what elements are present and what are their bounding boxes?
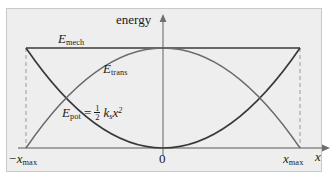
fraction-denominator: 2 [94,112,100,122]
e-mech-symbol: E [58,31,66,46]
e-mech-subscript: mech [66,38,84,47]
x-min-symbol: −x [8,151,23,166]
spring-term: ksx2 [103,105,122,121]
curve-label-e-trans: Etrans [103,61,128,77]
y-axis-label: energy [116,12,151,28]
x-max-subscript: max [289,158,304,167]
e-trans-symbol: E [103,61,111,76]
origin-tick-label: 0 [159,151,166,167]
one-half-fraction: 1 2 [94,104,100,122]
x-exponent: 2 [118,106,122,115]
x-min-tick-label: −xmax [8,151,37,167]
fraction-numerator: 1 [94,104,100,113]
figure-panel [6,8,322,172]
x-axis-label: x [315,149,321,165]
x-min-subscript: max [23,158,38,167]
curve-label-e-mech: Emech [58,31,84,47]
x-max-tick-label: xmax [283,151,303,167]
x-axis-arrowhead [322,145,330,152]
e-pot-lhs: Epot [62,105,81,121]
origin-label-text: 0 [159,151,166,166]
equals-sign: = [84,105,91,121]
y-axis-label-text: energy [116,12,151,27]
x-axis-label-text: x [315,149,321,164]
e-pot-subscript: pot [70,112,81,121]
energy-diagram-figure: energy Emech Etrans Epot = 1 2 ksx2 0 −x… [0,0,332,183]
e-trans-subscript: trans [111,68,128,77]
curve-label-e-pot-equation: Epot = 1 2 ksx2 [62,104,122,122]
e-pot-symbol: E [62,105,70,120]
